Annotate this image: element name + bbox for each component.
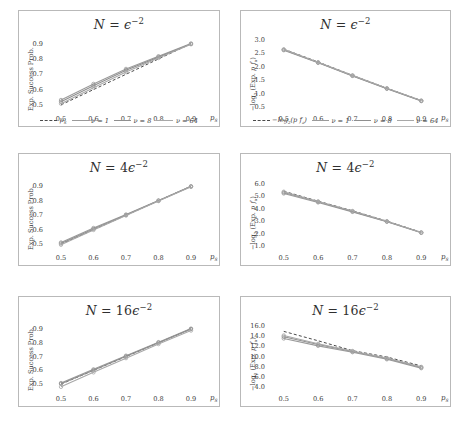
plot-area [232,290,463,431]
legend-item[interactable]: ν = 1 [312,117,349,125]
legend-item[interactable]: pS [40,116,67,125]
panel-bottom-left: N = 16ϵ−20.50.60.70.80.90.50.60.70.80.9p… [0,290,232,431]
panel-middle-right: N = 4ϵ−21.02.03.04.05.06.00.50.60.70.80.… [232,145,463,290]
legend-swatch [156,120,173,121]
legend-item[interactable]: ν = 8 [354,117,391,125]
legend-label: ν = 1 [331,117,349,125]
legend-item[interactable]: ν = 64 [156,117,198,125]
legend-label: ν = 64 [416,117,438,125]
legend-label: ν = 8 [374,117,392,125]
panel-bottom-right: N = 16ϵ−24.06.08.010.012.014.016.00.50.6… [232,290,463,431]
plot-area [232,145,463,290]
panel-middle-left: N = 4ϵ−20.50.60.70.80.90.50.60.70.80.9pS… [0,145,232,290]
legend-item[interactable]: −log2(p fa) [253,116,307,125]
series-line [61,187,191,245]
series-line [284,331,422,366]
legend-label: ν = 64 [176,117,198,125]
panel-legend: pSν = 1ν = 8ν = 64 [18,116,220,125]
series-line [284,49,422,100]
legend-label: pS [60,116,67,125]
panel-legend: −log2(p fa)ν = 1ν = 8ν = 64 [240,116,451,125]
panel-top-left: N = ϵ−20.50.60.70.80.90.50.60.70.80.9pSE… [0,0,232,145]
legend-swatch [312,120,329,121]
panel-top-right: N = ϵ−20.51.01.52.02.53.00.50.60.70.80.9… [232,0,463,145]
legend-swatch [397,120,414,121]
legend-swatch [114,120,131,121]
plot-area [0,290,232,431]
figure-grid: N = ϵ−20.50.60.70.80.90.50.60.70.80.9pSE… [0,0,463,431]
legend-label: ν = 1 [91,117,109,125]
legend-swatch [40,120,57,121]
legend-item[interactable]: ν = 64 [397,117,439,125]
legend-label: ν = 8 [133,117,151,125]
legend-swatch [354,120,371,121]
legend-item[interactable]: ν = 8 [114,117,151,125]
plot-area [0,145,232,290]
legend-swatch [72,120,89,121]
legend-swatch [253,120,270,121]
legend-item[interactable]: ν = 1 [72,117,109,125]
legend-label: −log2(p fa) [272,116,307,125]
series-line [61,331,191,387]
